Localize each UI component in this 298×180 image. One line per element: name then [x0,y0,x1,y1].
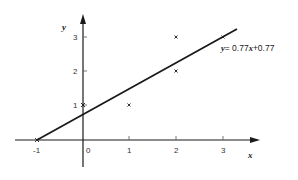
y-axis-arrow-icon [80,14,86,24]
equation-tail: +0.77 [253,43,275,53]
x-axis-label: x [247,150,253,160]
equation-mid: = 0.77 [225,43,249,53]
regression-line [37,29,237,140]
x-tick-label: 3 [221,146,226,155]
x-tick-label: 1 [127,146,132,155]
y-tick-label: 2 [73,67,78,76]
x-axis-arrow-icon [250,137,260,143]
data-point-marker [175,70,178,73]
y-tick-label: 1 [73,101,78,110]
y-axis-label: y [61,22,67,32]
data-point-marker [128,104,131,107]
regression-equation: y= 0.77x+0.77 [220,43,275,53]
x-tick-label: 2 [174,146,179,155]
y-tick-label: 3 [73,33,78,42]
x-tick-label: -1 [33,146,41,155]
chart-canvas: -1 0 1 2 3 1 2 3 x y y= 0.77x+0.77 [0,0,298,180]
data-point-marker [175,36,178,39]
x-tick-label: 0 [86,146,91,155]
